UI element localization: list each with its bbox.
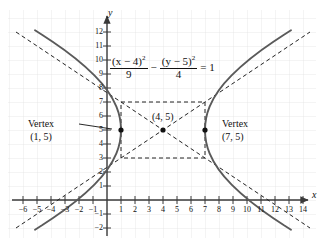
equation-frac2-numerator: (y − 5) xyxy=(162,55,192,67)
equation-fraction-2: (y − 5)2 4 xyxy=(160,55,198,81)
y-tick-label: −1 xyxy=(87,210,103,218)
y-tick-label: 11 xyxy=(87,42,103,50)
equation-frac2-exponent: 2 xyxy=(192,54,196,62)
x-tick-label: 5 xyxy=(170,206,184,214)
x-tick-label: 2 xyxy=(128,206,142,214)
y-tick-label: 4 xyxy=(87,140,103,148)
y-tick-label: 8 xyxy=(87,84,103,92)
x-tick-label: 12 xyxy=(268,206,282,214)
y-tick-label: 7 xyxy=(87,98,103,106)
x-tick-label: −3 xyxy=(58,206,72,214)
x-tick-label: 4 xyxy=(156,206,170,214)
equation-frac2-denominator: 4 xyxy=(160,68,198,81)
x-tick-label: 8 xyxy=(212,206,226,214)
vertex-left-title: Vertex xyxy=(28,118,54,131)
hyperbola-figure: (x − 4)2 9 − (y − 5)2 4 = 1 Vertex (1, 5… xyxy=(0,0,326,249)
vertex-right-title: Vertex xyxy=(222,118,248,131)
vertex-right-annotation: Vertex (7, 5) xyxy=(222,118,248,143)
y-axis-label: y xyxy=(108,8,112,18)
x-tick-label: 13 xyxy=(282,206,296,214)
y-tick-label: 3 xyxy=(87,154,103,162)
vertex-left-annotation: Vertex (1, 5) xyxy=(28,118,54,143)
y-tick-label: 5 xyxy=(87,126,103,134)
hyperbola-equation: (x − 4)2 9 − (y − 5)2 4 = 1 xyxy=(110,55,215,81)
vertex-right-point: (7, 5) xyxy=(222,131,248,144)
x-tick-label: 6 xyxy=(184,206,198,214)
equation-equals-one: = 1 xyxy=(200,62,214,73)
x-tick-label: 3 xyxy=(142,206,156,214)
x-tick-label: 10 xyxy=(240,206,254,214)
equation-operator: − xyxy=(151,62,157,73)
equation-fraction-1: (x − 4)2 9 xyxy=(110,55,148,81)
y-tick-label: −2 xyxy=(87,224,103,232)
y-tick-label: 10 xyxy=(87,56,103,64)
y-tick-label: 1 xyxy=(87,182,103,190)
x-axis-ticks xyxy=(23,196,303,204)
x-axis-label: x xyxy=(312,190,316,200)
x-tick-label: 11 xyxy=(254,206,268,214)
x-tick-label: −2 xyxy=(72,206,86,214)
equation-frac1-denominator: 9 xyxy=(110,68,148,81)
vertex-left-point: (1, 5) xyxy=(28,131,54,144)
x-tick-label: −5 xyxy=(30,206,44,214)
x-tick-label: 7 xyxy=(198,206,212,214)
y-tick-label: 12 xyxy=(87,28,103,36)
center-point-marker xyxy=(160,127,165,132)
x-tick-label: 1 xyxy=(114,206,128,214)
y-tick-label: 9 xyxy=(87,70,103,78)
vertex-right-marker xyxy=(202,127,207,132)
vertex-left-marker xyxy=(118,127,123,132)
equation-frac1-exponent: 2 xyxy=(142,54,146,62)
x-tick-label: −4 xyxy=(44,206,58,214)
x-tick-label: −6 xyxy=(16,206,30,214)
equation-frac1-numerator: (x − 4) xyxy=(112,55,142,67)
y-tick-label: 2 xyxy=(87,168,103,176)
y-tick-label: 6 xyxy=(87,112,103,120)
x-tick-label: 9 xyxy=(226,206,240,214)
center-point-label: (4, 5) xyxy=(152,112,174,122)
x-tick-label: 14 xyxy=(296,206,310,214)
